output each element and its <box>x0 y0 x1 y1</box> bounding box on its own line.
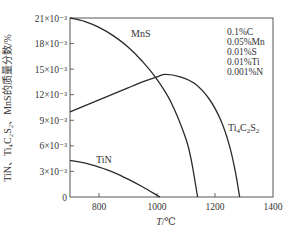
composition-mn: 0.05%Mn <box>227 37 265 47</box>
y-axis-title: TiN、Ti₄C₂S₂、MnS的质量分数/% <box>1 34 13 182</box>
y-tick-21: 21×10⁻³ <box>35 14 67 24</box>
x-tick-1000: 1000 <box>148 202 167 212</box>
chart: 0 3×10⁻³ 6×10⁻³ 9×10⁻³ 12×10⁻³ 15×10⁻³ 1… <box>0 0 298 232</box>
y-tick-3: 3×10⁻³ <box>40 167 68 177</box>
x-tick-1400: 1400 <box>264 202 283 212</box>
mns-curve <box>70 18 198 197</box>
composition-c: 0.1%C <box>227 27 253 37</box>
ti4c2s2-curve <box>70 74 240 197</box>
y-tick-0: 0 <box>62 193 67 203</box>
y-tick-18: 18×10⁻³ <box>35 39 67 49</box>
x-tick-labels: 800 1000 1200 1400 <box>92 202 283 212</box>
x-tick-1200: 1200 <box>206 202 225 212</box>
tin-curve <box>70 160 160 197</box>
composition-ti: 0.01%Ti <box>227 57 260 67</box>
y-tick-6: 6×10⁻³ <box>40 141 68 151</box>
y-tick-15: 15×10⁻³ <box>35 65 67 75</box>
x-axis-title: T/℃ <box>156 216 176 227</box>
composition-s: 0.01%S <box>227 47 257 57</box>
y-tick-12: 12×10⁻³ <box>35 90 67 100</box>
composition-n: 0.001%N <box>227 67 263 77</box>
mns-label: MnS <box>131 28 150 39</box>
x-tick-800: 800 <box>92 202 107 212</box>
y-tick-labels: 0 3×10⁻³ 6×10⁻³ 9×10⁻³ 12×10⁻³ 15×10⁻³ 1… <box>35 14 67 203</box>
tin-label: TiN <box>96 154 112 165</box>
y-tick-9: 9×10⁻³ <box>40 116 68 126</box>
composition-note: 0.1%C 0.05%Mn 0.01%S 0.01%Ti 0.001%N <box>227 27 265 77</box>
ti4c2s2-label: Ti4C2S2 <box>228 122 260 135</box>
y-axis-ticks <box>70 44 74 172</box>
